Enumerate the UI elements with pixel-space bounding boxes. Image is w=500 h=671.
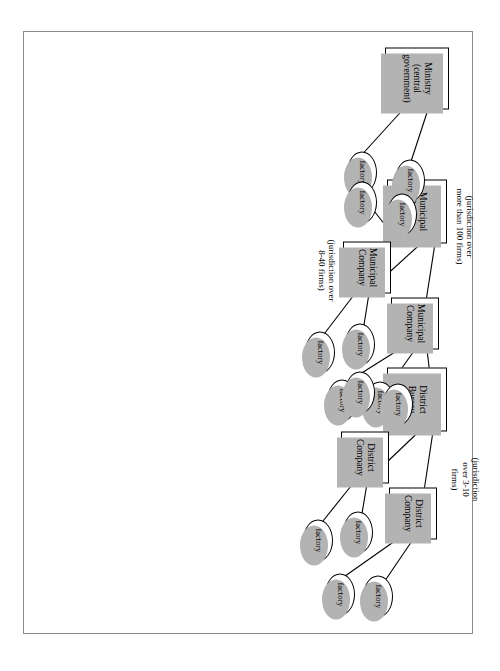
node-factory-label: factory: [373, 582, 383, 610]
node-factory-municipal-company-1-a[interactable]: factory: [305, 331, 335, 373]
node-municipal-company-1[interactable]: Municipal Company: [343, 241, 391, 293]
node-factory-district-company-2-a[interactable]: factory: [325, 573, 355, 615]
node-factory-label: factory: [357, 188, 367, 216]
node-factory-label: factory: [393, 390, 403, 418]
node-district-company-1-label: District Company: [354, 437, 375, 478]
node-factory-municipal-bureau-2[interactable]: factory: [387, 193, 417, 235]
node-ministry[interactable]: Ministry (central government): [385, 47, 449, 109]
note-municipal-bureau: (jurisdiction over more than 100 firms): [454, 171, 475, 281]
node-factory-label: factory: [405, 166, 415, 194]
node-municipal-company-2[interactable]: Municipal Company: [391, 297, 439, 349]
node-factory-municipal-bureau-1[interactable]: factory: [347, 181, 377, 223]
node-factory-district-company-1-b[interactable]: factory: [343, 511, 373, 553]
figure-frame: Ministry (central government) Municipal …: [23, 31, 473, 634]
node-district-company-2-label: District Company: [402, 493, 423, 534]
org-chart: Ministry (central government) Municipal …: [23, 31, 473, 634]
node-factory-label: factory: [355, 330, 365, 358]
node-factory-municipal-company-1-b[interactable]: factory: [345, 323, 375, 365]
node-factory-district-bureau-1[interactable]: factory: [345, 371, 375, 413]
node-factory-label: factory: [315, 338, 325, 366]
edge-ministry-factory-1: [363, 109, 403, 153]
node-district-company-1[interactable]: District Company: [341, 431, 389, 483]
note-district-company: (jurisdiction over 3-10 firms): [450, 441, 481, 517]
node-factory-label: factory: [353, 518, 363, 546]
node-factory-label: factory: [335, 580, 345, 608]
node-factory-district-company-1-a[interactable]: factory: [303, 519, 333, 561]
edge-ministry-factory-2: [411, 109, 428, 161]
node-factory-label: factory: [313, 526, 323, 554]
node-municipal-company-1-label: Municipal Company: [356, 245, 377, 288]
node-ministry-label: Ministry (central government): [401, 48, 433, 108]
node-factory-district-company-2-b[interactable]: factory: [363, 575, 393, 617]
node-factory-label: factory: [355, 378, 365, 406]
node-district-company-2[interactable]: District Company: [389, 487, 437, 539]
node-municipal-company-2-label: Municipal Company: [404, 301, 425, 344]
node-factory-district-bureau-2[interactable]: factory: [383, 383, 413, 425]
figure-page: Ministry (central government) Municipal …: [0, 0, 500, 671]
note-municipal-company: (jurisdiction over 8-40 firms): [316, 217, 337, 323]
node-factory-label: factory: [397, 200, 407, 228]
